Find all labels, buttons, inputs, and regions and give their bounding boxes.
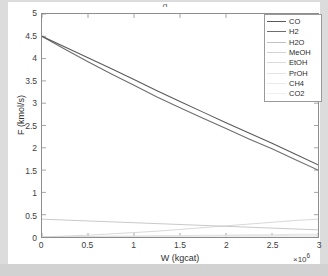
legend-label: EtOH [289, 58, 307, 68]
legend-item-h2[interactable]: H2 [265, 27, 321, 37]
y-tick-label: 5 [8, 8, 37, 18]
x-axis-exponent-power: 6 [307, 252, 311, 259]
legend-line-sample [267, 21, 286, 23]
x-axis-label: W (kgcat) [41, 253, 319, 263]
x-tick-label: 1.5 [166, 240, 194, 250]
figure-canvas: g F (kmol/s) 00.511.522.533.544.55 00.51… [8, 2, 320, 264]
legend-item-proh[interactable]: PrOH [265, 68, 321, 78]
legend-label: CO [289, 17, 300, 27]
legend-item-co[interactable]: CO [265, 17, 321, 27]
legend-line-sample [267, 42, 286, 44]
legend-item-co2[interactable]: CO2 [265, 89, 321, 99]
legend-line-sample [267, 52, 286, 54]
legend-label: H2O [289, 38, 304, 48]
legend[interactable]: COH2H2OMeOHEtOHPrOHCH4CO2 [264, 14, 322, 102]
series-line-h2o [42, 219, 318, 230]
legend-line-sample [267, 93, 286, 95]
x-tick-label: 0 [27, 240, 55, 250]
x-tick-label: 3 [305, 240, 328, 250]
legend-item-h2o[interactable]: H2O [265, 38, 321, 48]
x-tick-label: 0.5 [73, 240, 101, 250]
figure-bottom-margin [0, 264, 328, 276]
x-tick-label: 2.5 [259, 240, 287, 250]
y-tick-label: 1 [8, 188, 37, 198]
x-axis-exponent: ×106 [293, 252, 310, 264]
legend-label: PrOH [289, 69, 308, 79]
legend-label: H2 [289, 27, 299, 37]
x-tick-label: 1 [120, 240, 148, 250]
y-tick-label: 2.5 [8, 121, 37, 131]
legend-item-ch4[interactable]: CH4 [265, 79, 321, 89]
y-tick-label: 0.5 [8, 211, 37, 221]
legend-line-sample [267, 83, 286, 85]
legend-label: MeOH [289, 48, 311, 58]
legend-item-meoh[interactable]: MeOH [265, 48, 321, 58]
y-tick-label: 4 [8, 53, 37, 63]
legend-label: CH4 [289, 79, 304, 89]
clipped-title: g [158, 2, 172, 7]
legend-line-sample [267, 62, 286, 64]
x-tick-label: 2 [212, 240, 240, 250]
y-tick-label: 3.5 [8, 76, 37, 86]
legend-item-etoh[interactable]: EtOH [265, 58, 321, 68]
figure-left-margin [0, 0, 8, 276]
y-tick-label: 3 [8, 98, 37, 108]
legend-label: CO2 [289, 89, 304, 99]
y-tick-label: 2 [8, 143, 37, 153]
x-axis-exponent-base: ×10 [293, 255, 307, 264]
legend-line-sample [267, 73, 286, 75]
y-tick-label: 4.5 [8, 31, 37, 41]
y-tick-label: 1.5 [8, 166, 37, 176]
legend-line-sample [267, 31, 286, 33]
